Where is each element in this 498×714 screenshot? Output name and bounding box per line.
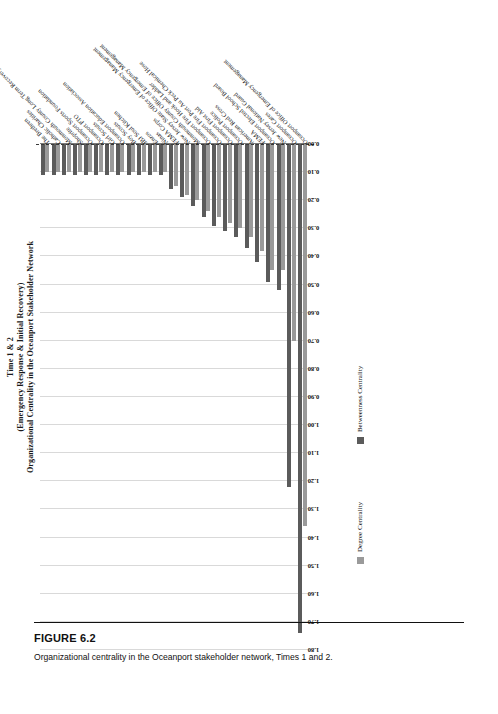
bar-betweenness-centrality	[223, 144, 227, 231]
bar-group	[179, 144, 190, 650]
value-axis-tick-labels: 1.801.701.601.501.401.301.201.101.000.90…	[310, 144, 344, 650]
bar-degree-centrality	[185, 144, 189, 195]
bar-group	[104, 144, 115, 650]
bar-betweenness-centrality	[94, 144, 98, 175]
bar-group	[51, 144, 62, 650]
bar-group	[169, 144, 180, 650]
bar-betweenness-centrality	[52, 144, 56, 175]
bar-betweenness-centrality	[137, 144, 141, 175]
category-axis-labels: Oceanport Office of Emergency Management…	[40, 0, 308, 144]
bar-degree-centrality	[56, 144, 60, 172]
legend-label-betweenness-centrality: Betweenness Centrality	[356, 366, 364, 432]
bar-betweenness-centrality	[62, 144, 66, 175]
bar-group	[158, 144, 169, 650]
rotated-figure-canvas: Time 1 & 2 (Emergency Response & Initial…	[0, 0, 498, 714]
bar-degree-centrality	[110, 144, 114, 172]
value-tick-label: 1.10	[294, 450, 334, 457]
bar-degree-centrality	[228, 144, 232, 223]
value-tick-label: 0.70	[294, 337, 334, 344]
bar-group	[83, 144, 94, 650]
bar-group	[72, 144, 83, 650]
bar-group	[212, 144, 223, 650]
bar-group	[61, 144, 72, 650]
legend-item-betweenness-centrality: Betweenness Centrality	[356, 366, 364, 444]
figure-caption-block: FIGURE 6.2 Organizational centrality in …	[0, 622, 498, 714]
figure-page: Time 1 & 2 (Emergency Response & Initial…	[0, 0, 498, 714]
value-tick-label: 1.00	[294, 422, 334, 429]
bar-betweenness-centrality	[245, 144, 249, 248]
bar-betweenness-centrality	[105, 144, 109, 175]
bar-degree-centrality	[45, 144, 49, 172]
value-tick-label: 0.30	[294, 225, 334, 232]
bar-degree-centrality	[99, 144, 103, 172]
value-tick-label: 1.20	[294, 478, 334, 485]
bar-degree-centrality	[78, 144, 82, 172]
bar-group	[115, 144, 126, 650]
bar-degree-centrality	[238, 144, 242, 228]
bar-group	[126, 144, 137, 650]
bar-betweenness-centrality	[234, 144, 238, 237]
value-tick-label: 0.20	[294, 197, 334, 204]
legend-label-degree-centrality: Degree Centrality	[356, 502, 364, 552]
bar-betweenness-centrality	[191, 144, 195, 206]
value-tick-label: 0.40	[294, 253, 334, 260]
value-tick-label: 1.60	[294, 590, 334, 597]
bar-group	[190, 144, 201, 650]
bar-betweenness-centrality	[298, 144, 302, 633]
bar-degree-centrality	[142, 144, 146, 172]
bar-betweenness-centrality	[84, 144, 88, 175]
legend-swatch-degree-centrality	[357, 557, 364, 564]
bar-betweenness-centrality	[266, 144, 270, 282]
bar-degree-centrality	[249, 144, 253, 237]
bar-group	[244, 144, 255, 650]
bar-betweenness-centrality	[148, 144, 152, 175]
bar-degree-centrality	[270, 144, 274, 271]
legend-swatch-betweenness-centrality	[357, 437, 364, 444]
value-tick-label: 0.80	[294, 365, 334, 372]
value-tick-label: 0.60	[294, 309, 334, 316]
bar-degree-centrality	[163, 144, 167, 172]
chart-title-line-2: (Emergency Response & Initial Recovery)	[16, 0, 26, 714]
bar-group	[94, 144, 105, 650]
bar-group	[276, 144, 287, 650]
bar-degree-centrality	[88, 144, 92, 172]
bar-group	[265, 144, 276, 650]
legend-item-degree-centrality: Degree Centrality	[356, 502, 364, 564]
bar-betweenness-centrality	[212, 144, 216, 226]
bar-betweenness-centrality	[159, 144, 163, 175]
bar-betweenness-centrality	[73, 144, 77, 175]
bar-betweenness-centrality	[287, 144, 291, 487]
value-tick-label: 1.40	[294, 534, 334, 541]
bar-group	[233, 144, 244, 650]
bar-betweenness-centrality	[202, 144, 206, 217]
value-tick-label: 0.50	[294, 281, 334, 288]
bar-group	[136, 144, 147, 650]
bar-betweenness-centrality	[180, 144, 184, 197]
bar-degree-centrality	[217, 144, 221, 217]
bar-group	[222, 144, 233, 650]
bar-degree-centrality	[174, 144, 178, 186]
bar-group	[201, 144, 212, 650]
value-tick-label: 0.10	[294, 169, 334, 176]
caption-rule	[34, 622, 464, 623]
value-tick-label: 1.50	[294, 562, 334, 569]
chart-title-line-1: Time 1 & 2	[6, 0, 16, 714]
bar-degree-centrality	[153, 144, 157, 172]
bar-series-container	[40, 144, 308, 650]
plot-area	[40, 144, 308, 650]
bar-betweenness-centrality	[169, 144, 173, 189]
bar-degree-centrality	[195, 144, 199, 200]
bar-group	[147, 144, 158, 650]
figure-number: FIGURE 6.2	[34, 632, 96, 644]
bar-degree-centrality	[281, 144, 285, 271]
bar-betweenness-centrality	[255, 144, 259, 262]
chart-legend: Degree Centrality Betweenness Centrality	[352, 144, 368, 564]
value-tick-label: 1.30	[294, 506, 334, 513]
bar-group	[40, 144, 51, 650]
bar-degree-centrality	[131, 144, 135, 172]
bar-group	[254, 144, 265, 650]
bar-betweenness-centrality	[277, 144, 281, 290]
bar-degree-centrality	[206, 144, 210, 211]
bar-betweenness-centrality	[41, 144, 45, 175]
bar-degree-centrality	[260, 144, 264, 251]
